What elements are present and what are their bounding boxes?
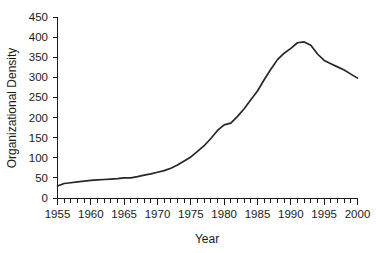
axes — [58, 17, 359, 199]
y-tick-label: 350 — [29, 51, 48, 63]
y-tick-label: 0 — [42, 192, 48, 204]
x-axis-minor-ticks — [58, 199, 358, 205]
y-tick-label: 100 — [29, 152, 48, 164]
x-tick-label: 1960 — [78, 208, 104, 220]
y-tick-label: 250 — [29, 91, 48, 103]
x-tick-label: 1975 — [178, 208, 204, 220]
y-tick-label: 50 — [35, 172, 48, 184]
line-chart: 050100150200250300350400450 195519601965… — [0, 0, 376, 253]
x-tick-label: 2000 — [345, 208, 371, 220]
x-tick-label: 1970 — [145, 208, 171, 220]
series-line-organizational-density — [58, 42, 358, 186]
y-tick-label: 300 — [29, 71, 48, 83]
y-axis-title: Organizational Density — [5, 48, 19, 169]
y-tick-label: 450 — [29, 11, 48, 23]
x-axis-title: Year — [195, 232, 219, 246]
x-tick-label: 1980 — [211, 208, 237, 220]
y-tick-label: 150 — [29, 132, 48, 144]
x-tick-label: 1965 — [111, 208, 137, 220]
x-tick-label: 1995 — [311, 208, 337, 220]
y-axis-ticks — [53, 17, 58, 198]
x-tick-label: 1985 — [245, 208, 271, 220]
x-axis-tick-labels: 1955196019651970197519801985199019952000 — [45, 208, 371, 220]
y-tick-label: 200 — [29, 112, 48, 124]
chart-figure: 050100150200250300350400450 195519601965… — [0, 0, 376, 253]
y-axis-tick-labels: 050100150200250300350400450 — [29, 11, 48, 204]
x-tick-label: 1990 — [278, 208, 304, 220]
x-tick-label: 1955 — [45, 208, 71, 220]
y-tick-label: 400 — [29, 31, 48, 43]
